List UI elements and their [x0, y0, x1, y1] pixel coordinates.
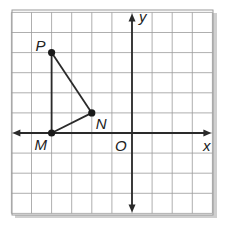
coordinate-plane: PNM x y O [0, 0, 232, 227]
x-axis-label: x [202, 137, 211, 154]
point-M [48, 129, 55, 136]
origin-label: O [115, 137, 127, 154]
point-P [48, 49, 55, 56]
point-label-N: N [96, 115, 107, 132]
point-N [88, 109, 95, 116]
point-label-P: P [36, 37, 46, 54]
point-label-M: M [35, 136, 48, 153]
